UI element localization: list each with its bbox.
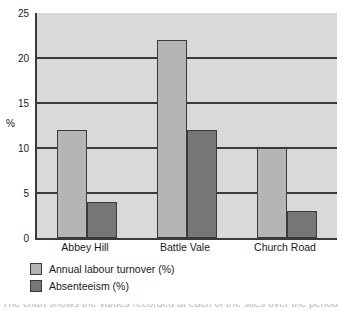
x-axis-tick-label: Battle Vale — [160, 241, 210, 253]
x-axis-labels: Abbey HillBattle ValeChurch Road — [35, 241, 335, 257]
bar — [257, 148, 287, 238]
y-axis-tick-label: 10 — [18, 143, 29, 154]
y-axis-tick-label: 0 — [23, 233, 29, 244]
y-axis-tick-label: 20 — [18, 53, 29, 64]
bar — [287, 211, 317, 238]
legend-label: Annual labour turnover (%) — [49, 263, 174, 275]
legend-swatch-icon — [30, 280, 42, 292]
x-axis-tick-label: Church Road — [254, 241, 316, 253]
bar — [187, 130, 217, 238]
legend-item-0: Annual labour turnover (%) — [30, 261, 174, 276]
y-axis-tick-label: 25 — [18, 8, 29, 19]
cutoff-caption-text: The chart shows the values recorded at e… — [2, 304, 338, 309]
plot-area — [35, 13, 337, 240]
legend-label: Absenteeism (%) — [49, 280, 129, 292]
cutoff-caption: The chart shows the values recorded at e… — [0, 304, 343, 311]
legend-swatch-icon — [30, 263, 42, 275]
y-axis-tick-label: 5 — [23, 188, 29, 199]
bar — [157, 40, 187, 238]
x-axis-tick-label: Abbey Hill — [61, 241, 108, 253]
bars-layer — [37, 13, 337, 238]
y-axis-tick-label: 15 — [18, 98, 29, 109]
bar-chart: % 0510152025 Abbey HillBattle ValeChurch… — [0, 0, 343, 311]
legend: Annual labour turnover (%) Absenteeism (… — [30, 261, 174, 295]
bar — [87, 202, 117, 238]
bar — [57, 130, 87, 238]
legend-item-1: Absenteeism (%) — [30, 278, 174, 293]
y-axis-ticks: 0510152025 — [0, 0, 33, 250]
